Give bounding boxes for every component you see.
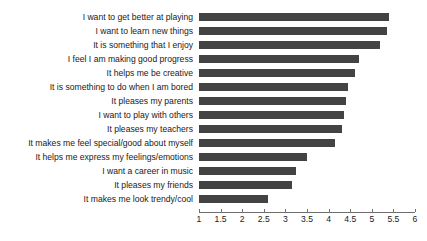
bar: [199, 69, 355, 77]
x-axis-tick-label: 4.5: [344, 214, 356, 224]
x-axis-tick-label: 4: [326, 214, 331, 224]
bar: [199, 97, 346, 105]
bar: [199, 139, 335, 147]
bar: [199, 153, 307, 161]
x-axis-tick: [307, 209, 308, 212]
bars-area: [0, 0, 427, 215]
x-axis-tick: [242, 209, 243, 212]
x-axis-tick: [415, 209, 416, 212]
x-axis-tick-label: 2.5: [258, 214, 270, 224]
x-axis-tick-label: 3.5: [301, 214, 313, 224]
x-axis-tick: [372, 209, 373, 212]
x-axis-tick: [285, 209, 286, 212]
x-axis-tick: [221, 209, 222, 212]
x-axis-line: [199, 212, 415, 213]
bar: [199, 195, 268, 203]
bar: [199, 125, 342, 133]
bar: [199, 41, 380, 49]
x-axis-tick-label: 1: [197, 214, 202, 224]
x-axis-tick: [393, 209, 394, 212]
x-axis-tick: [329, 209, 330, 212]
bar: [199, 181, 292, 189]
bar: [199, 111, 344, 119]
x-axis-tick-label: 5: [369, 214, 374, 224]
bar-chart: I want to get better at playing I want t…: [0, 0, 427, 241]
x-axis-tick: [264, 209, 265, 212]
bar: [199, 13, 389, 21]
x-axis-tick-label: 5.5: [387, 214, 399, 224]
x-axis-tick: [199, 209, 200, 212]
bar: [199, 83, 348, 91]
x-axis-tick: [350, 209, 351, 212]
bar: [199, 167, 296, 175]
x-axis-tick-label: 6: [413, 214, 418, 224]
x-axis-tick-label: 1.5: [215, 214, 227, 224]
bar: [199, 27, 387, 35]
x-axis-tick-label: 2: [240, 214, 245, 224]
x-axis-tick-label: 3: [283, 214, 288, 224]
bar: [199, 55, 359, 63]
